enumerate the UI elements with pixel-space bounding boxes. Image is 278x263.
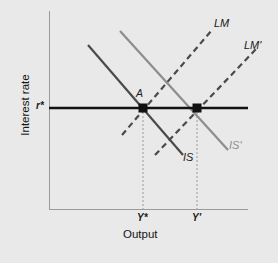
y-axis-label-wrap: Interest rate [15,60,35,150]
y-tick-label-r-star: r* [36,101,44,111]
plot-canvas [0,0,278,263]
curve-label-lm: LM [214,18,229,29]
curve-label-is-prime: IS' [229,140,242,151]
figure-surface: Interest rate r* Y* Y' Output LM LM' IS … [0,0,278,263]
x-tick-label-y-star: Y* [137,213,148,223]
curve-lm-prime [155,47,258,155]
x-tick-label-y-prime: Y' [192,213,201,223]
islm-figure: Interest rate r* Y* Y' Output LM LM' IS … [0,0,278,263]
marker-point-b [193,104,202,113]
marker-point-a [139,104,148,113]
point-label-a: A [136,88,143,99]
curve-label-is: IS [183,152,193,163]
curve-is [88,45,183,155]
curve-label-lm-prime: LM' [244,40,261,51]
y-axis-label: Interest rate [20,74,32,135]
x-axis-label: Output [123,229,158,241]
